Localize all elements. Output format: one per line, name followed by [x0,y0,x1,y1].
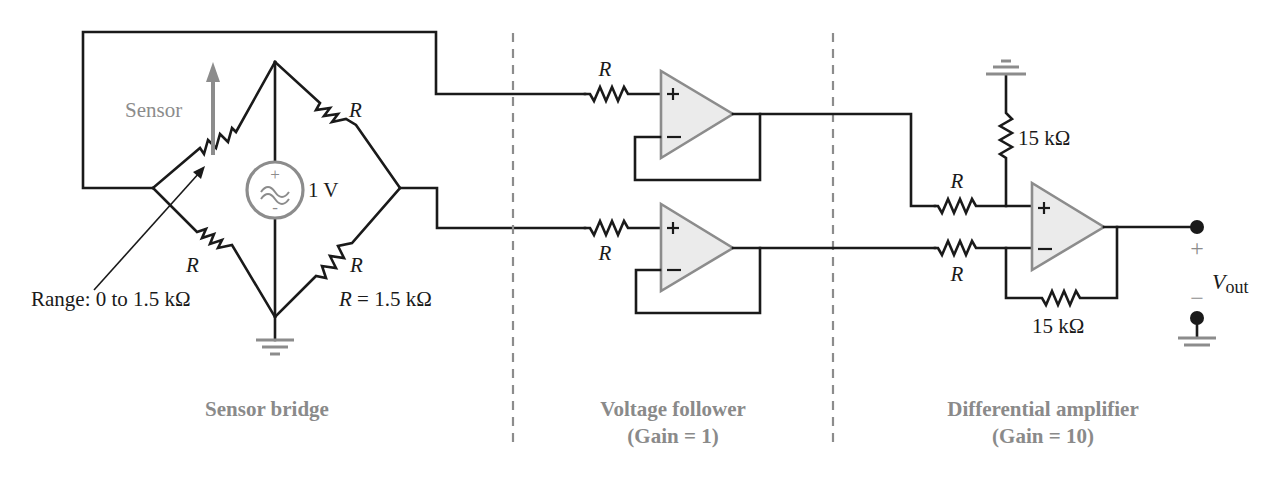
r-value-label: R = 1.5 kΩ [338,287,432,311]
output-minus-sign: − [1190,285,1204,311]
opamp-follower-top [661,71,733,158]
resistor-follower-bottom-label: R [598,241,612,265]
resistor-to-ground [1000,75,1012,206]
ground-icon-top [986,61,1026,74]
resistor-follower-top [585,87,660,101]
opamp-follower-bottom [661,204,733,291]
source-minus-sign: - [272,198,278,217]
resistor-top-right-label: R [348,98,362,122]
caption-differential-amplifier: Differential amplifier [947,397,1138,421]
output-plus-sign: + [1190,235,1204,261]
sensor-bridge: + - 1 V Sensor R R R Range: 0 to 1.5 kΩ … [31,32,585,354]
resistor-bottom-right-label: R [349,253,363,277]
caption-voltage-follower: Voltage follower [600,397,746,421]
output-wire-top [733,114,935,206]
resistor-diff-plus [935,199,1031,213]
resistor-feedback-label: 15 kΩ [1032,314,1084,338]
resistor-follower-top-label: R [598,57,612,81]
ground-icon-output [1178,338,1216,345]
range-pointer-arrow [94,172,200,290]
resistor-diff-minus [935,241,1031,255]
resistor-bottom-left-label: R [185,253,199,277]
source-plus-sign: + [270,165,280,184]
resistor-to-ground-label: 15 kΩ [1018,126,1070,150]
circuit-diagram: + - 1 V Sensor R R R Range: 0 to 1.5 kΩ … [0,0,1286,482]
voltage-follower-top: R [585,57,935,206]
caption-voltage-follower-gain: (Gain = 1) [627,424,718,448]
source-value-label: 1 V [308,178,339,202]
resistor-diff-plus-label: R [950,169,964,193]
output-terminal-positive [1190,220,1204,234]
caption-sensor-bridge: Sensor bridge [205,397,329,421]
differential-amplifier: R R 15 kΩ 15 kΩ + − Vout [935,61,1248,345]
voltage-follower-bottom: R [585,204,935,313]
opamp-differential [1032,183,1104,270]
resistor-follower-bottom [585,221,660,235]
wire-right-node [400,188,585,228]
caption-differential-amplifier-gain: (Gain = 10) [992,424,1094,448]
vout-label: Vout [1212,269,1248,297]
resistor-diff-minus-label: R [950,262,964,286]
range-label: Range: 0 to 1.5 kΩ [31,287,191,311]
sensor-label: Sensor [125,98,182,122]
ground-icon [256,340,294,354]
